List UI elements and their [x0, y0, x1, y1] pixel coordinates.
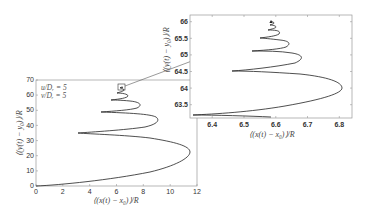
main-xtick-label: 2 [61, 188, 65, 195]
inset-ytick-label: 64 [180, 85, 188, 92]
main-ytick-label: 40 [26, 122, 34, 129]
main-ytick-label: 20 [26, 152, 34, 159]
main-ytick-label: 10 [26, 167, 34, 174]
main-ytick-label: 60 [26, 91, 34, 98]
inset-plot: 6.4 6.5 6.6 6.7 6.8 63.5 64 64.5 65 65.5… [162, 15, 352, 139]
inset-y-axis-label: ⟨(y(t) − y₀)⟩/R [162, 27, 171, 72]
inset-ytick-label: 63.5 [174, 101, 188, 108]
main-ytick-label: 0 [30, 182, 34, 189]
main-ytick-label: 30 [26, 137, 34, 144]
inset-ytick-label: 64.5 [174, 68, 188, 75]
main-xtick-label: 4 [88, 188, 92, 195]
inset-xtick-label: 6.5 [239, 121, 249, 128]
main-plot: 0 2 4 6 8 10 12 0 10 20 30 40 50 60 70 ⟨… [15, 76, 201, 205]
main-y-axis-label: ⟨(y(t) − y₀)⟩/R [15, 110, 24, 155]
main-x-axis-label: ⟨(x(t) − x₀)⟩/R [93, 196, 138, 205]
main-xtick-label: 6 [115, 188, 119, 195]
main-xtick-label: 10 [166, 188, 174, 195]
inset-xtick-label: 6.4 [207, 121, 217, 128]
inset-xtick-label: 6.7 [303, 121, 313, 128]
inset-xtick-label: 6.8 [334, 121, 344, 128]
inset-ytick-label: 66 [180, 18, 188, 25]
main-xtick-label: 8 [141, 188, 145, 195]
inset-ytick-label: 65 [180, 51, 188, 58]
main-xtick-label: 0 [34, 188, 38, 195]
inset-ytick-label: 65.5 [174, 35, 188, 42]
inset-x-axis-label: ⟨(x(t) − x₀)⟩/R [249, 130, 294, 139]
figure: 0 2 4 6 8 10 12 0 10 20 30 40 50 60 70 ⟨… [0, 0, 367, 213]
inset-axes-frame [190, 15, 352, 118]
annotation-v-dr: v/Dᵣ = 5 [41, 91, 66, 100]
inset-xtick-label: 6.6 [271, 121, 281, 128]
main-ytick-label: 70 [26, 76, 34, 83]
main-xtick-label: 12 [193, 188, 201, 195]
trajectory-end-marker [121, 86, 123, 88]
main-trajectory-line [36, 87, 190, 186]
main-ytick-label: 50 [26, 106, 34, 113]
